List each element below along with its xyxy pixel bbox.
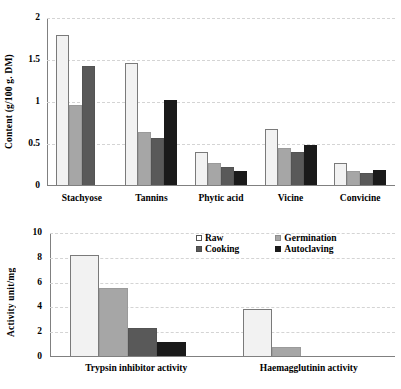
y-tick-label: 10 bbox=[16, 228, 42, 238]
figure-two-bar-charts: Content (g/100 g. DM) 2 1.5 1 0.5 0 Stac… bbox=[0, 0, 401, 389]
content-chart-panel: Content (g/100 g. DM) 2 1.5 1 0.5 0 Stac… bbox=[0, 0, 401, 218]
bar-germination[interactable] bbox=[99, 288, 128, 357]
legend-label: Cooking bbox=[205, 244, 239, 254]
y-tick-label: 8 bbox=[16, 253, 42, 263]
bar-cooking[interactable] bbox=[221, 167, 234, 186]
legend-item-autoclaving[interactable]: Autoclaving bbox=[275, 244, 336, 254]
y-tick-label: 6 bbox=[16, 278, 42, 288]
bar-raw[interactable] bbox=[70, 255, 99, 357]
bar-raw[interactable] bbox=[125, 63, 138, 186]
y-tick-label: 1.5 bbox=[14, 55, 40, 65]
x-tick-label: Trypsin inhibitor activity bbox=[50, 363, 223, 373]
x-tick-label: Vicine bbox=[256, 193, 326, 203]
bar-raw[interactable] bbox=[243, 309, 272, 357]
x-tick-label: Phytic acid bbox=[186, 193, 256, 203]
x-axis-line bbox=[50, 356, 395, 357]
black-square-icon bbox=[275, 246, 281, 252]
y-tick-label: 2 bbox=[16, 327, 42, 337]
bar-cooking[interactable] bbox=[151, 138, 164, 186]
y-tick-label: 4 bbox=[16, 303, 42, 313]
bar-raw[interactable] bbox=[265, 129, 278, 186]
activity-chart-panel: Activity unit/mg 10 8 6 4 2 0 Raw Germin… bbox=[0, 225, 401, 389]
bar-group bbox=[56, 18, 108, 186]
legend-item-raw[interactable]: Raw bbox=[196, 233, 239, 243]
bar-germination[interactable] bbox=[347, 171, 360, 186]
light-gray-square-icon bbox=[275, 235, 281, 241]
x-axis-line bbox=[47, 185, 395, 186]
legend: Raw Germination Cooking Autoclaving bbox=[196, 233, 337, 254]
bar-cooking[interactable] bbox=[128, 328, 157, 357]
bar-group bbox=[195, 18, 247, 186]
legend-label: Germination bbox=[284, 233, 336, 243]
x-tick-label: Stachyose bbox=[47, 193, 117, 203]
legend-item-cooking[interactable]: Cooking bbox=[196, 244, 239, 254]
bar-germination[interactable] bbox=[208, 163, 221, 186]
bar-group bbox=[334, 18, 386, 186]
y-tick-label: 0 bbox=[16, 352, 42, 362]
y-tick-label: 0.5 bbox=[14, 139, 40, 149]
bar-raw[interactable] bbox=[195, 152, 208, 186]
bar-autoclaving[interactable] bbox=[157, 342, 186, 358]
bar-autoclaving[interactable] bbox=[373, 170, 386, 186]
bar-cooking[interactable] bbox=[291, 152, 304, 186]
bar-germination[interactable] bbox=[69, 105, 82, 186]
plot-area bbox=[47, 18, 395, 186]
y-tick-label: 0 bbox=[14, 181, 40, 191]
bar-group bbox=[125, 18, 177, 186]
bar-group bbox=[70, 233, 186, 357]
bar-germination[interactable] bbox=[138, 132, 151, 186]
bar-series-container bbox=[47, 18, 395, 186]
x-tick-label: Haemagglutinin activity bbox=[223, 363, 396, 373]
white-square-icon bbox=[196, 235, 202, 241]
bar-raw[interactable] bbox=[334, 163, 347, 186]
bar-group bbox=[265, 18, 317, 186]
y-tick-label: 1 bbox=[14, 97, 40, 107]
bar-autoclaving[interactable] bbox=[304, 145, 317, 186]
x-tick-label: Convicine bbox=[325, 193, 395, 203]
dark-gray-square-icon bbox=[196, 246, 202, 252]
legend-label: Raw bbox=[205, 233, 223, 243]
bar-raw[interactable] bbox=[56, 35, 69, 186]
bar-autoclaving[interactable] bbox=[234, 171, 247, 186]
x-tick-label: Tannins bbox=[117, 193, 187, 203]
legend-item-germination[interactable]: Germination bbox=[275, 233, 336, 243]
legend-label: Autoclaving bbox=[284, 244, 333, 254]
y-tick-label: 2 bbox=[14, 13, 40, 23]
bar-cooking[interactable] bbox=[82, 66, 95, 186]
bar-germination[interactable] bbox=[278, 148, 291, 186]
bar-autoclaving[interactable] bbox=[164, 100, 177, 186]
